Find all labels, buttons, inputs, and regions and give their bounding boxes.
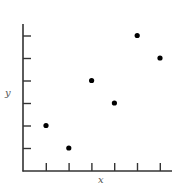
axes	[23, 24, 173, 172]
scatter-plot	[0, 0, 180, 192]
axis-ticks	[23, 36, 160, 171]
data-point	[66, 145, 71, 150]
x-axis-label: x	[98, 175, 104, 185]
data-points	[43, 33, 162, 151]
data-point	[112, 100, 117, 105]
data-point	[43, 123, 48, 128]
data-point	[135, 33, 140, 38]
y-axis-label: y	[5, 88, 11, 98]
data-point	[89, 78, 94, 83]
data-point	[157, 55, 162, 60]
